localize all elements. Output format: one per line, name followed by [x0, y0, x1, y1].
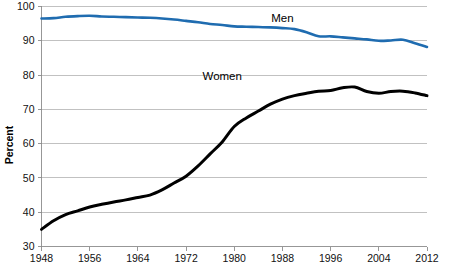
line-chart: 30405060708090100 1948195619641972198019… — [0, 0, 459, 267]
x-tick-label-1988: 1988 — [271, 252, 295, 264]
series-line-women — [42, 87, 428, 230]
data-series — [42, 16, 428, 230]
y-tick-label-50: 50 — [23, 172, 35, 184]
series-line-men — [42, 16, 428, 47]
y-tick-label-60: 60 — [23, 137, 35, 149]
y-tick-label-70: 70 — [23, 103, 35, 115]
x-tick-label-1980: 1980 — [223, 252, 247, 264]
x-tick-label-1956: 1956 — [78, 252, 102, 264]
y-tick-label-80: 80 — [23, 69, 35, 81]
series-label-women: Women — [202, 70, 241, 82]
y-tick-label-90: 90 — [23, 34, 35, 46]
gridlines — [42, 7, 428, 213]
y-axis-tick-labels: 30405060708090100 — [17, 0, 35, 252]
x-axis-tick-labels: 194819561964197219801988199620042012 — [30, 252, 439, 264]
y-axis-title: Percent — [3, 125, 15, 164]
series-label-men: Men — [271, 12, 293, 24]
y-tick-label-100: 100 — [17, 0, 35, 12]
y-tick-label-40: 40 — [23, 206, 35, 218]
y-tick-label-30: 30 — [23, 240, 35, 252]
x-tick-label-2012: 2012 — [415, 252, 439, 264]
x-tick-label-2004: 2004 — [367, 252, 391, 264]
chart-container: 30405060708090100 1948195619641972198019… — [0, 0, 459, 267]
x-tick-label-1996: 1996 — [319, 252, 343, 264]
x-tick-label-1964: 1964 — [126, 252, 150, 264]
x-tick-label-1972: 1972 — [174, 252, 198, 264]
x-tick-label-1948: 1948 — [30, 252, 54, 264]
